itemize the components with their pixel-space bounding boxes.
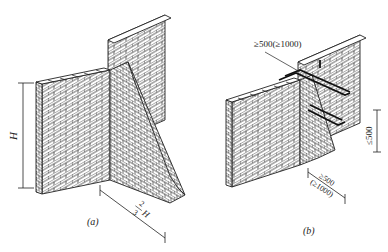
- top-dimension-b: ≥500(≥1000): [254, 39, 301, 72]
- caption-a: (a): [87, 216, 99, 228]
- height-dimension-a: H: [7, 83, 34, 188]
- offset-var: H: [140, 207, 152, 220]
- main-wall-a: [36, 68, 110, 194]
- bottom-dimension-b: ≥500 (≥1000): [308, 168, 345, 204]
- offset-num: 2: [138, 199, 147, 209]
- height-label: H: [7, 131, 19, 141]
- diagram-canvas: H 2 3 H (a): [0, 0, 388, 252]
- vertical-dimension-b: ≤500: [364, 110, 381, 152]
- figure-b: ≥500(≥1000) ≤500 ≥500 (≥1000) (b): [226, 35, 381, 237]
- top-dim-label: ≥500(≥1000): [254, 39, 301, 49]
- figure-a: H 2 3 H (a): [7, 15, 185, 243]
- caption-b: (b): [303, 225, 315, 237]
- main-wall-b: [226, 78, 300, 187]
- vertical-dim-label: ≤500: [364, 126, 374, 145]
